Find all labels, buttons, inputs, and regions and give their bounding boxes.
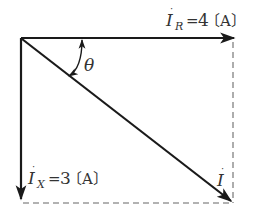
- svg-text:〔A〕: 〔A〕: [205, 12, 246, 30]
- label-i: I ·: [216, 163, 224, 190]
- angle-arc: [69, 40, 82, 76]
- label-ir: I · R = 4 〔A〕: [165, 3, 246, 33]
- svg-text:X: X: [36, 178, 46, 191]
- svg-text:=: =: [48, 170, 61, 188]
- label-ix: I · X = 3 〔A〕: [27, 161, 108, 191]
- phasor-diagram: θ I · R = 4 〔A〕 I · X = 3 〔A〕 I ·: [0, 0, 257, 222]
- svg-text:〔A〕: 〔A〕: [67, 170, 108, 188]
- svg-text:·: ·: [32, 161, 35, 172]
- svg-text:·: ·: [221, 163, 224, 174]
- angle-theta-label: θ: [84, 55, 94, 75]
- svg-text:R: R: [174, 20, 183, 33]
- svg-text:·: ·: [170, 3, 173, 14]
- svg-text:=: =: [186, 12, 199, 30]
